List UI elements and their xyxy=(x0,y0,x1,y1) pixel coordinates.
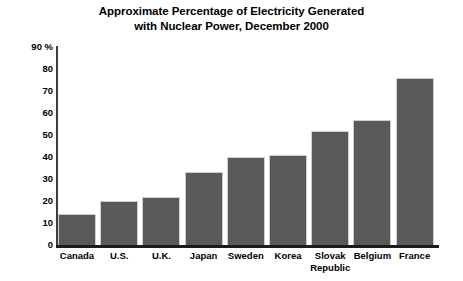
bar-rect xyxy=(269,155,307,245)
chart-title-line-2: with Nuclear Power, December 2000 xyxy=(0,19,463,34)
y-axis-tick-10: 10 xyxy=(7,218,53,228)
bar-rect xyxy=(142,197,180,245)
plot-area xyxy=(57,47,443,245)
y-axis-tick-labels: 90 %80706050403020100 xyxy=(0,0,53,281)
y-axis-tick-60: 60 xyxy=(7,108,53,118)
x-axis-line xyxy=(56,245,439,248)
y-axis-tick-30: 30 xyxy=(7,174,53,184)
bar-rect xyxy=(185,172,223,245)
bar-sweden xyxy=(227,47,265,245)
bar-rect xyxy=(311,131,349,245)
bar-belgium xyxy=(353,47,391,245)
bar-rect xyxy=(58,214,96,245)
y-axis-tick-70: 70 xyxy=(7,86,53,96)
bar-rect xyxy=(100,201,138,245)
bar-u.s. xyxy=(100,47,138,245)
y-axis-tick-90: 90 % xyxy=(7,42,53,52)
bar-u.k. xyxy=(142,47,180,245)
y-axis-tick-40: 40 xyxy=(7,152,53,162)
chart-title-line-1: Approximate Percentage of Electricity Ge… xyxy=(0,4,463,19)
bar-canada xyxy=(58,47,96,245)
x-axis-label-france: France xyxy=(387,250,443,262)
bar-rect xyxy=(396,78,434,245)
bar-korea xyxy=(269,47,307,245)
bar-rect xyxy=(353,120,391,245)
bar-rect xyxy=(227,157,265,245)
bar-chart-figure: Approximate Percentage of Electricity Ge… xyxy=(0,0,463,281)
y-axis-tick-50: 50 xyxy=(7,130,53,140)
y-axis-tick-80: 80 xyxy=(7,64,53,74)
chart-title: Approximate Percentage of Electricity Ge… xyxy=(0,4,463,33)
y-axis-tick-0: 0 xyxy=(7,240,53,250)
bar-france xyxy=(396,47,434,245)
y-axis-tick-20: 20 xyxy=(7,196,53,206)
bar-slovak-republic xyxy=(311,47,349,245)
bar-japan xyxy=(185,47,223,245)
